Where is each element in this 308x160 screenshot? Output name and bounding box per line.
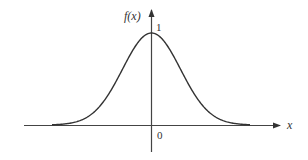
gaussian-plot: f(x) 1 0 x: [0, 0, 308, 160]
x-axis-label: x: [286, 118, 293, 132]
y-axis-label: f(x): [124, 9, 141, 23]
origin-label: 0: [157, 129, 163, 141]
peak-label: 1: [156, 21, 162, 33]
chart: f(x) 1 0 x: [0, 0, 308, 160]
